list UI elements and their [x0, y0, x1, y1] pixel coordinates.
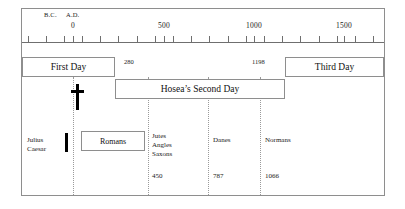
people-normans: Normans — [265, 136, 291, 145]
date-normans-1066: 1066 — [265, 172, 279, 180]
axis-tick-20 — [337, 36, 338, 43]
axis-tick-12 — [209, 36, 210, 43]
axis-tick-10 — [173, 36, 174, 43]
axis-label-1000: 1000 — [246, 21, 262, 30]
axis-tick-5 — [100, 36, 101, 43]
people-romans: Romans — [81, 131, 145, 151]
date-saxons-450: 450 — [152, 172, 163, 180]
timeline-diagram: B.C. A.D. 050010001500 First Day 280 119… — [0, 0, 405, 209]
people-danes: Danes — [213, 136, 231, 145]
axis-tick-4 — [82, 36, 83, 43]
axis-tick-22 — [355, 36, 356, 43]
timeline-axis-line — [22, 42, 384, 43]
axis-tick-17 — [282, 36, 283, 43]
axis-tick-18 — [300, 36, 301, 43]
axis-tick-2 — [64, 36, 65, 43]
axis-tick-19 — [319, 36, 320, 43]
axis-era-ad-label: A.D. — [66, 11, 79, 18]
axis-tick-0 — [28, 36, 29, 43]
axis-tick-16 — [264, 36, 265, 43]
axis-tick-1 — [46, 36, 47, 43]
cross-icon — [70, 84, 84, 110]
axis-tick-7 — [137, 36, 138, 43]
people-julius-caesar: Julius Caesar — [27, 136, 46, 154]
axis-tick-3 — [73, 36, 74, 43]
axis-tick-13 — [228, 36, 229, 43]
axis-tick-9 — [164, 36, 165, 43]
axis-era-bc-label: B.C. — [44, 11, 57, 18]
boundary-date-1198: 1198 — [252, 58, 265, 65]
people-romans-label: Romans — [100, 137, 126, 146]
people-jutes-angles-saxons: Jutes Angles Saxons — [152, 132, 172, 159]
axis-label-0: 0 — [71, 21, 75, 30]
axis-tick-14 — [246, 36, 247, 43]
axis-tick-15 — [254, 36, 255, 43]
band-second-day-label: Hosea’s Second Day — [161, 84, 240, 94]
axis-tick-6 — [118, 36, 119, 43]
band-third-day: Third Day — [285, 57, 384, 77]
axis-tick-23 — [373, 36, 374, 43]
boundary-date-280: 280 — [124, 58, 134, 65]
cross-icon-vertical — [76, 84, 79, 110]
band-second-day: Hosea’s Second Day — [115, 79, 285, 99]
date-danes-787: 787 — [213, 172, 224, 180]
axis-label-1500: 1500 — [336, 21, 352, 30]
band-first-day-label: First Day — [51, 62, 87, 72]
axis-label-500: 500 — [158, 21, 170, 30]
axis-tick-8 — [155, 36, 156, 43]
axis-tick-21 — [344, 36, 345, 43]
band-third-day-label: Third Day — [315, 62, 354, 72]
cross-icon-horizontal — [71, 90, 84, 93]
band-first-day: First Day — [22, 57, 115, 77]
axis-tick-11 — [191, 36, 192, 43]
julius-caesar-marker-bar — [65, 133, 68, 152]
